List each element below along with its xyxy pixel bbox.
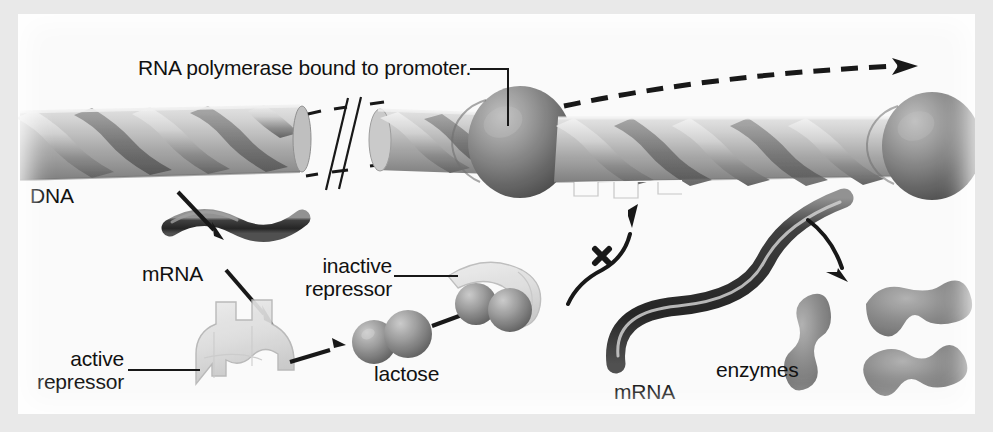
diagram-canvas: RNA polymerase bound to promoter. DNA mR… — [18, 14, 975, 414]
label-lactose: lactose — [374, 362, 439, 385]
promoter-caption: RNA polymerase bound to promoter. — [138, 56, 471, 79]
label-active-repressor-line1: active — [18, 347, 124, 370]
label-inactive-repressor-line1: inactive — [270, 254, 392, 277]
label-mrna-left: mRNA — [142, 262, 203, 285]
label-enzymes: enzymes — [716, 358, 799, 381]
label-dna: DNA — [30, 184, 74, 207]
label-active-repressor-line2: repressor — [18, 370, 124, 393]
figure-frame: RNA polymerase bound to promoter. DNA mR… — [0, 0, 993, 432]
label-inactive-repressor-line2: repressor — [270, 277, 392, 300]
label-mrna-right: mRNA — [614, 380, 675, 403]
